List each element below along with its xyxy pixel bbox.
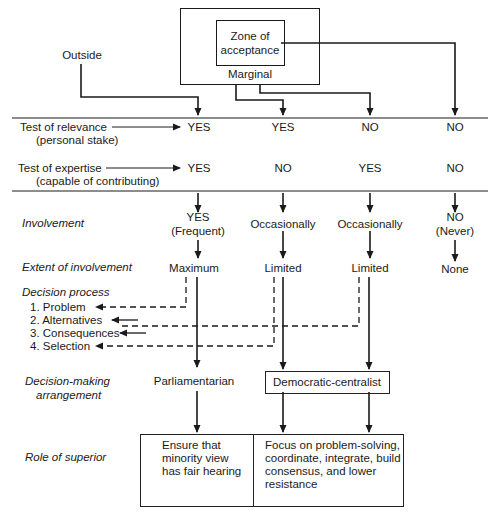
role-left-text: Ensure that minority view has fair heari… xyxy=(162,439,244,478)
involvement-col4-sub: (Never) xyxy=(436,225,474,238)
democratic-centralist-label: Democratic-centralist xyxy=(273,376,381,389)
relevance-col4: NO xyxy=(446,121,463,134)
marginal-label: Marginal xyxy=(228,68,272,81)
arrangement-label-line2: arrangement xyxy=(36,389,101,402)
extent-col2: Limited xyxy=(264,262,301,275)
zone-of-acceptance-box xyxy=(217,21,285,66)
expertise-col4: NO xyxy=(446,162,463,175)
involvement-col1-sub: (Frequent) xyxy=(171,225,225,238)
relevance-sub: (personal stake) xyxy=(36,134,118,147)
extent-label: Extent of involvement xyxy=(22,261,132,274)
relevance-col2: YES xyxy=(271,121,294,134)
expertise-col1: YES xyxy=(187,162,210,175)
outside-label: Outside xyxy=(62,49,102,62)
expertise-col2: NO xyxy=(274,162,291,175)
relevance-col3: NO xyxy=(361,121,378,134)
extent-col1: Maximum xyxy=(169,262,219,275)
expertise-label: Test of expertise xyxy=(18,162,102,175)
decision-process-label: Decision process xyxy=(22,286,110,299)
extent-col3: Limited xyxy=(351,262,388,275)
step-problem: 1. Problem xyxy=(30,301,86,314)
zone-label-line1: Zone of xyxy=(231,30,270,43)
role-box-divider xyxy=(253,435,254,506)
expertise-sub: (capable of contributing) xyxy=(36,175,159,188)
involvement-col3: Occasionally xyxy=(337,218,402,231)
step-selection: 4. Selection xyxy=(30,340,90,353)
relevance-label: Test of relevance xyxy=(20,121,107,134)
involvement-label: Involvement xyxy=(22,217,84,230)
relevance-col1: YES xyxy=(187,121,210,134)
involvement-col1-main: YES xyxy=(186,211,209,224)
parliamentarian-label: Parliamentarian xyxy=(154,375,235,388)
zone-label-line2: acceptance xyxy=(221,44,280,57)
expertise-col3: YES xyxy=(358,162,381,175)
role-label: Role of superior xyxy=(25,451,106,464)
step-consequences: 3. Consequences xyxy=(30,327,120,340)
role-right-text: Focus on problem-solving, coordinate, in… xyxy=(265,439,401,491)
involvement-col4-main: NO xyxy=(446,211,463,224)
involvement-col2: Occasionally xyxy=(250,218,315,231)
step-alternatives: 2. Alternatives xyxy=(30,314,102,327)
democratic-centralist-box: Democratic-centralist xyxy=(265,371,390,394)
extent-col4: None xyxy=(441,263,469,276)
role-box: Ensure that minority view has fair heari… xyxy=(140,434,404,507)
arrangement-label-line1: Decision-making xyxy=(25,375,110,388)
